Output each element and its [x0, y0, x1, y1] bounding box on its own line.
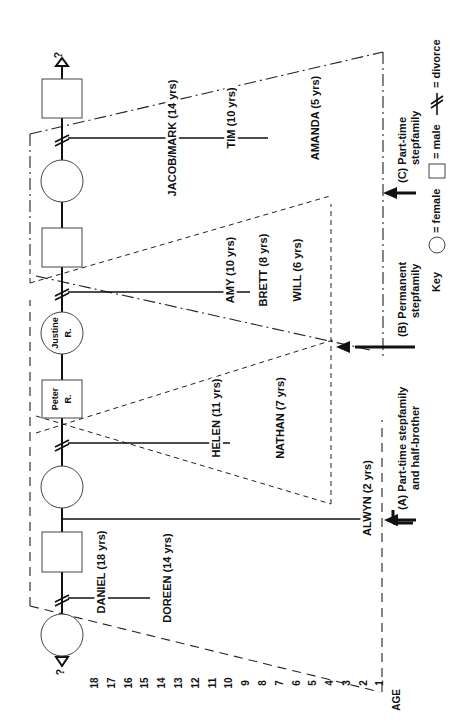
arrow-c-icon	[383, 187, 416, 199]
svg-text:= male: = male	[430, 124, 442, 159]
svg-text:16: 16	[123, 677, 134, 689]
svg-text:9: 9	[240, 680, 251, 686]
male-square-1	[42, 79, 82, 118]
svg-text:= female: = female	[430, 189, 442, 233]
child-alwyn: ALWYN (2 yrs)	[361, 460, 373, 536]
svg-text:R.: R.	[63, 395, 73, 404]
svg-text:10: 10	[223, 677, 234, 689]
svg-text:11: 11	[207, 677, 218, 688]
age-axis-label: AGE	[391, 689, 402, 711]
child-lines	[62, 138, 368, 598]
label-b-line2: stepfamily	[409, 263, 421, 318]
child-nathan: NATHAN (7 yrs)	[274, 377, 286, 459]
genogram-diagram: ? ? Justine R. Peter R. JACOB/MARK (14 y…	[0, 0, 450, 727]
age-axis: 18 17 16 15 14 13 12 11 10 9 8 7 6 5 4 3…	[89, 677, 402, 711]
child-jacob-mark: JACOB/MARK (14 yrs)	[166, 79, 178, 196]
svg-text:14: 14	[156, 677, 167, 689]
svg-text:3: 3	[341, 680, 352, 686]
arrow-b-icon	[336, 341, 415, 353]
label-c-line1: (C) Part-time	[396, 117, 408, 183]
label-a-line2: and half-brother	[409, 405, 421, 490]
svg-text:7: 7	[274, 680, 285, 686]
child-brett: BRETT (8 yrs)	[257, 233, 269, 306]
unknown-arrow-bottom-icon: ?	[54, 657, 68, 675]
svg-text:R.: R.	[63, 329, 73, 338]
region-a-boundary	[30, 260, 382, 692]
child-helen: HELEN (11 yrs)	[210, 378, 222, 457]
svg-text:5: 5	[307, 680, 318, 686]
male-square-4	[42, 532, 82, 572]
child-amy: AMY (10 yrs)	[224, 236, 236, 303]
svg-text:?: ?	[54, 668, 66, 675]
label-a-line1: (A) Part-time stepfamily	[396, 386, 408, 510]
svg-text:1: 1	[374, 680, 385, 686]
svg-text:Peter: Peter	[50, 387, 60, 410]
label-c-line2: stepfamily	[409, 110, 421, 165]
svg-text:2: 2	[358, 680, 369, 686]
female-circle-1	[41, 160, 83, 202]
svg-text:15: 15	[139, 677, 150, 689]
unknown-arrow-top-icon: ?	[52, 51, 68, 66]
svg-text:= divorce: = divorce	[430, 39, 442, 88]
legend-female-icon	[429, 237, 445, 253]
svg-text:8: 8	[257, 680, 268, 686]
svg-text:Justine: Justine	[50, 317, 60, 349]
label-b-line1: (B) Permanent	[396, 261, 408, 337]
female-justine-r: Justine R.	[41, 312, 83, 354]
svg-text:6: 6	[291, 680, 302, 686]
svg-text:?: ?	[52, 51, 64, 58]
legend-male-icon	[429, 164, 445, 178]
svg-text:4: 4	[324, 680, 335, 686]
child-doreen: DOREEN (14 yrs)	[161, 533, 173, 623]
female-circle-3	[41, 466, 83, 508]
male-peter-r: Peter R.	[42, 380, 82, 418]
legend-title: Key	[430, 271, 442, 292]
child-will: WILL (6 yrs)	[291, 238, 303, 301]
child-tim: TIM (10 yrs)	[225, 87, 237, 148]
legend-divorce-icon	[431, 93, 443, 115]
male-square-2	[42, 228, 82, 267]
svg-text:12: 12	[190, 677, 201, 689]
svg-text:17: 17	[106, 677, 117, 689]
legend: Key = female = male = divorce	[429, 39, 445, 292]
child-amanda: AMANDA (5 yrs)	[309, 75, 321, 160]
svg-text:18: 18	[89, 677, 100, 689]
svg-text:13: 13	[173, 677, 184, 689]
region-c-boundary	[30, 52, 383, 360]
female-circle-4	[41, 614, 83, 656]
child-daniel: DANIEL (18 yrs)	[95, 530, 107, 613]
